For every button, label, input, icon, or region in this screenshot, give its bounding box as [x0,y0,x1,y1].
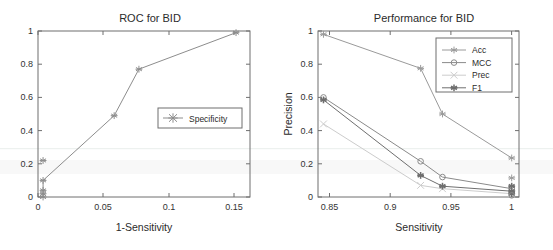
performance-ytick-3: 0.6 [300,92,313,102]
roc-chart-panel: ROC for BID [0,0,276,250]
roc-xtick-0: 0 [35,202,40,212]
figure-container: ROC for BID [0,0,553,250]
performance-chart-svg: Performance for BID [276,0,553,250]
roc-chart-title: ROC for BID [119,12,181,24]
scan-artifact-line [0,148,276,149]
performance-ytick-5: 1 [308,26,313,36]
roc-ytick-0: 0 [28,192,33,202]
roc-ytick-4: 0.8 [20,59,33,69]
roc-chart-svg: ROC for BID [0,0,276,250]
performance-yaxis-label: Precision [282,92,294,135]
roc-legend[interactable]: Specificity [158,108,242,128]
roc-xtick-3: 0.15 [225,202,243,212]
performance-xtick-2: 0.95 [442,202,460,212]
legend-label-acc: Acc [472,45,487,55]
roc-ytick-1: 0.2 [20,159,33,169]
performance-xtick-0: 0.85 [321,202,339,212]
roc-xtick-1: 0.05 [94,202,112,212]
roc-legend-label-specificity: Specificity [189,114,228,124]
roc-xtick-2: 0.1 [163,202,176,212]
performance-legend[interactable]: AccMCCPrecF1 [436,38,512,93]
scan-artifact-band [0,160,276,174]
asterisk-icon [168,113,177,122]
performance-xaxis-label: Sensitivity [395,221,443,233]
roc-ytick-2: 0.4 [20,126,33,136]
performance-ytick-1: 0.2 [300,159,313,169]
performance-chart-panel: Performance for BID [276,0,552,250]
performance-chart-title: Performance for BID [374,12,474,24]
roc-ytick-5: 1 [28,26,33,36]
roc-ytick-3: 0.6 [20,92,33,102]
performance-xtick-1: 0.9 [384,202,397,212]
performance-xtick-3: 1 [509,202,514,212]
performance-ytick-4: 0.8 [300,59,313,69]
performance-ytick-2: 0.4 [300,126,313,136]
legend-label-prec: Prec [472,70,490,80]
roc-xaxis-label: 1-Sensitivity [116,221,173,233]
performance-ytick-0: 0 [308,192,313,202]
legend-label-mcc: MCC [472,58,491,68]
legend-label-f1: F1 [472,83,482,93]
